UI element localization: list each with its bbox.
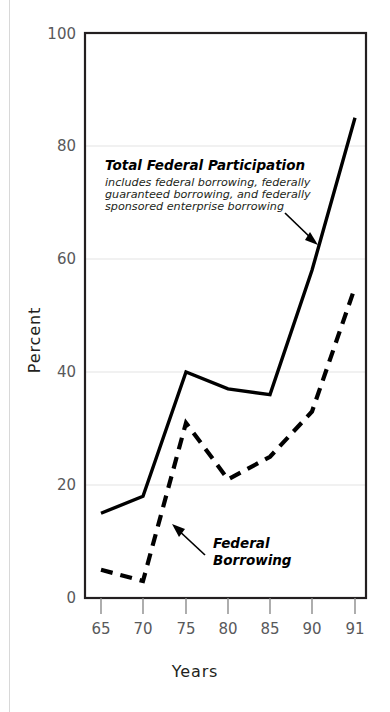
x-tick-label-85: 85: [260, 620, 279, 638]
annotation-total-federal-participation-line-3: sponsored enterprise borrowing: [105, 200, 284, 213]
y-axis-tick-labels: 0 20 40 60 80 100: [47, 25, 76, 607]
x-tick-label-65: 65: [91, 620, 110, 638]
annotation-total-federal-participation-heading: Total Federal Participation: [105, 157, 305, 173]
y-axis-title: Percent: [25, 307, 44, 374]
x-tick-label-90: 90: [302, 620, 321, 638]
y-tick-label-100: 100: [47, 25, 76, 43]
x-tick-label-80: 80: [218, 620, 237, 638]
y-tick-label-60: 60: [57, 250, 76, 268]
y-tick-label-0: 0: [66, 589, 76, 607]
annotation-federal-borrowing-line-1: Federal: [213, 535, 270, 551]
chart-figure: 0 20 40 60 80 100 65 70 75 80 85 90 91 Y…: [0, 0, 390, 712]
y-tick-label-40: 40: [57, 363, 76, 381]
x-tick-label-91: 91: [345, 620, 364, 638]
plot-background: [85, 33, 366, 598]
x-axis-tick-labels: 65 70 75 80 85 90 91: [91, 620, 364, 638]
y-tick-label-80: 80: [57, 137, 76, 155]
x-tick-label-75: 75: [176, 620, 195, 638]
annotation-federal-borrowing-line-2: Borrowing: [213, 552, 292, 568]
x-axis-ticks: [101, 598, 355, 614]
y-tick-label-20: 20: [57, 476, 76, 494]
x-tick-label-70: 70: [133, 620, 152, 638]
federal-participation-line-chart: 0 20 40 60 80 100 65 70 75 80 85 90 91 Y…: [0, 0, 390, 712]
x-axis-title: Years: [171, 662, 219, 681]
